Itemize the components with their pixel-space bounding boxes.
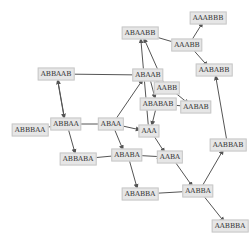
graph-node: AABABB (196, 64, 233, 77)
graph-edge (201, 149, 223, 187)
graph-node: AABA (157, 151, 183, 164)
graph-node: AAABBB (190, 12, 227, 25)
graph-node: AABBA (182, 185, 213, 198)
graph-node: AABBAB (210, 139, 247, 152)
graph-node: ABABAB (140, 98, 177, 111)
graph-node: ABBABA (60, 153, 97, 166)
graph-node: AAABB (171, 39, 202, 52)
graph-edge (129, 159, 138, 189)
graph-node: ABAABB (122, 27, 159, 40)
graph-edge (57, 78, 64, 119)
graph-edge (141, 38, 149, 127)
graph-edge (68, 128, 75, 154)
graph-node: ABBBAA (12, 124, 49, 137)
graph-node: ABABBA (122, 188, 159, 201)
graph-edge (202, 194, 225, 222)
graph-node: ABAA (98, 118, 124, 131)
graph-node: ABAAB (132, 69, 163, 82)
graph-node: ABABA (111, 149, 142, 162)
graph-node: AAA (138, 125, 159, 138)
graph-node: AABB (154, 82, 180, 95)
graph-edge (114, 128, 124, 151)
graph-node: AABBBA (212, 220, 249, 233)
graph-node: ABBAA (50, 118, 81, 131)
graph-edge (215, 75, 226, 141)
graph-node: AABAB (180, 101, 211, 114)
graph-node: ABBAAB (38, 68, 75, 81)
graph-edge (174, 160, 193, 187)
graph-edge (152, 108, 157, 126)
